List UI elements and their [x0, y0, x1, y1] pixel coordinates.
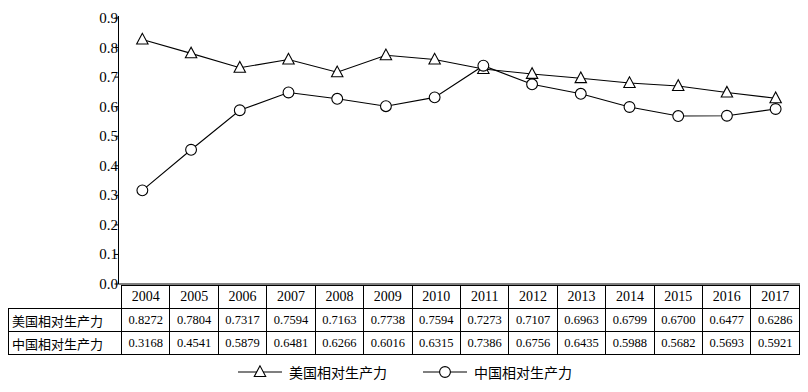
- legend-label: 美国相对生产力: [289, 362, 387, 382]
- table-cell: 0.6266: [315, 332, 363, 355]
- table-cell: 0.6286: [751, 309, 800, 332]
- table-cell: 0.3168: [122, 332, 170, 355]
- table-header-row: 2004200520062007200820092010201120122013…: [9, 286, 800, 309]
- table-cell: 0.6477: [703, 309, 751, 332]
- table-cell: 0.6315: [412, 332, 460, 355]
- table-cell: 0.5988: [606, 332, 654, 355]
- table-column-header: 2014: [606, 286, 654, 309]
- table-cell: 0.6435: [557, 332, 605, 355]
- table-body: 美国相对生产力0.82720.78040.73170.75940.71630.7…: [9, 309, 800, 355]
- table-column-header: 2011: [460, 286, 508, 309]
- table-cell: 0.7107: [509, 309, 557, 332]
- legend-label: 中国相对生产力: [474, 362, 572, 382]
- table-cell: 0.7594: [267, 309, 315, 332]
- table-cell: 0.8272: [122, 309, 170, 332]
- table-cell: 0.7804: [170, 309, 218, 332]
- data-table: 2004200520062007200820092010201120122013…: [8, 285, 800, 355]
- table-cell: 0.5682: [654, 332, 702, 355]
- table-column-header: 2013: [557, 286, 605, 309]
- plot-area: 0.00.10.20.30.40.50.60.70.80.9: [0, 0, 808, 292]
- table-column-header: 2016: [703, 286, 751, 309]
- table-row: 中国相对生产力0.31680.45410.58790.64810.62660.6…: [9, 332, 800, 355]
- line-chart-svg: [0, 0, 808, 292]
- table-cell: 0.6700: [654, 309, 702, 332]
- table-cell: 0.6963: [557, 309, 605, 332]
- table-column-header: 2009: [364, 286, 412, 309]
- table-column-header: 2017: [751, 286, 800, 309]
- table-cell: 0.6799: [606, 309, 654, 332]
- table-header: 2004200520062007200820092010201120122013…: [9, 286, 800, 309]
- table-cell: 0.5879: [218, 332, 266, 355]
- chart-legend: 美国相对生产力中国相对生产力: [0, 358, 808, 386]
- table-cell: 0.4541: [170, 332, 218, 355]
- table-row-header: 中国相对生产力: [9, 332, 122, 355]
- table-row: 美国相对生产力0.82720.78040.73170.75940.71630.7…: [9, 309, 800, 332]
- table-cell: 0.5693: [703, 332, 751, 355]
- table-cell: 0.7317: [218, 309, 266, 332]
- table-column-header: 2005: [170, 286, 218, 309]
- table-cell: 0.6756: [509, 332, 557, 355]
- table-cell: 0.5921: [751, 332, 800, 355]
- table-corner-cell: [9, 286, 122, 309]
- table-column-header: 2007: [267, 286, 315, 309]
- table-column-header: 2004: [122, 286, 170, 309]
- table-cell: 0.7386: [460, 332, 508, 355]
- legend-item: 中国相对生产力: [421, 362, 572, 382]
- series-2: [137, 60, 781, 195]
- legend-circle-icon: [421, 364, 469, 380]
- table-column-header: 2012: [509, 286, 557, 309]
- legend-item: 美国相对生产力: [236, 362, 387, 382]
- table-cell: 0.6481: [267, 332, 315, 355]
- table-column-header: 2008: [315, 286, 363, 309]
- table-cell: 0.7594: [412, 309, 460, 332]
- axes: [119, 16, 801, 284]
- table-cell: 0.7738: [364, 309, 412, 332]
- table-cell: 0.7273: [460, 309, 508, 332]
- chart-figure: 0.00.10.20.30.40.50.60.70.80.9 200420052…: [0, 0, 808, 392]
- table-row-header: 美国相对生产力: [9, 309, 122, 332]
- table-column-header: 2015: [654, 286, 702, 309]
- table-column-header: 2010: [412, 286, 460, 309]
- table-column-header: 2006: [218, 286, 266, 309]
- table-cell: 0.7163: [315, 309, 363, 332]
- table-cell: 0.6016: [364, 332, 412, 355]
- series-1: [137, 33, 782, 102]
- legend-triangle-icon: [236, 364, 284, 380]
